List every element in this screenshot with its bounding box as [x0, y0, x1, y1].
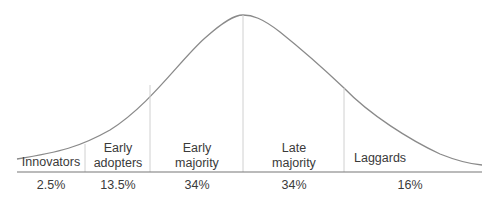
percent-early-adopters: 13.5% — [86, 178, 150, 192]
label-line: adopters — [86, 156, 150, 171]
percent-laggards: 16% — [345, 178, 475, 192]
segment-label-innovators: Innovators — [17, 155, 85, 170]
label-line: Early — [151, 141, 243, 156]
label-line: majority — [151, 156, 243, 171]
segment-label-early-majority: Early majority — [151, 141, 243, 171]
percent-late-majority: 34% — [244, 178, 344, 192]
label-line: Early — [86, 141, 150, 156]
percent-early-majority: 34% — [151, 178, 243, 192]
segment-label-early-adopters: Early adopters — [86, 141, 150, 171]
label-line: Late — [244, 141, 344, 156]
segment-label-late-majority: Late majority — [244, 141, 344, 171]
percent-innovators: 2.5% — [17, 178, 85, 192]
label-line: majority — [244, 156, 344, 171]
segment-label-laggards: Laggards — [354, 151, 406, 166]
